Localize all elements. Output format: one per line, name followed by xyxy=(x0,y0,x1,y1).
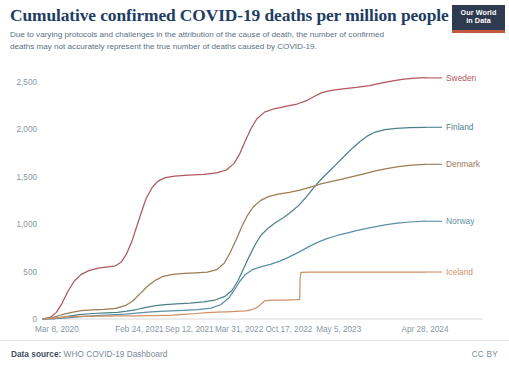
x-axis-tick-label: Mar 8, 2020 xyxy=(35,325,79,334)
data-source[interactable]: Data source: WHO COVID-19 Dashboard xyxy=(11,349,167,359)
legend-label-norway[interactable]: Norway xyxy=(446,216,475,226)
series-line-sweden[interactable] xyxy=(43,78,425,319)
y-axis-tick-label: 1,000 xyxy=(17,220,38,229)
line-chart-svg: 05001,0001,5002,0002,500Mar 8, 2020Feb 2… xyxy=(0,0,509,340)
y-axis-tick-label: 2,500 xyxy=(17,78,38,87)
y-axis-tick-label: 1,500 xyxy=(17,173,38,182)
chart-footer: Data source: WHO COVID-19 Dashboard CC B… xyxy=(0,340,509,367)
x-axis-tick-label: Feb 24, 2021 xyxy=(115,325,164,334)
legend-label-iceland[interactable]: Iceland xyxy=(446,267,473,277)
legend-label-sweden[interactable]: Sweden xyxy=(446,73,477,83)
x-axis-tick-label: Oct 17, 2022 xyxy=(265,325,312,334)
x-axis-tick-label: Apr 28, 2024 xyxy=(402,325,449,334)
x-axis-tick-label: Mar 31, 2022 xyxy=(215,325,264,334)
legend-label-denmark[interactable]: Denmark xyxy=(446,159,481,169)
series-line-denmark[interactable] xyxy=(43,164,425,319)
data-source-prefix: Data source: xyxy=(11,349,61,359)
x-axis-tick-label: Sep 12, 2021 xyxy=(165,325,214,334)
owid-chart: Cumulative confirmed COVID-19 deaths per… xyxy=(0,0,509,367)
y-axis-tick-label: 2,000 xyxy=(17,125,38,134)
legend-label-finland[interactable]: Finland xyxy=(446,122,474,132)
series-line-iceland[interactable] xyxy=(43,272,425,319)
y-axis-tick-label: 500 xyxy=(23,268,37,277)
plot-area: 05001,0001,5002,0002,500Mar 8, 2020Feb 2… xyxy=(0,0,509,340)
y-axis-tick-label: 0 xyxy=(32,315,37,324)
series-line-norway[interactable] xyxy=(43,221,425,319)
x-axis-tick-label: May 5, 2023 xyxy=(316,325,362,334)
data-source-value: WHO COVID-19 Dashboard xyxy=(64,349,168,359)
license-label[interactable]: CC BY xyxy=(472,349,498,359)
